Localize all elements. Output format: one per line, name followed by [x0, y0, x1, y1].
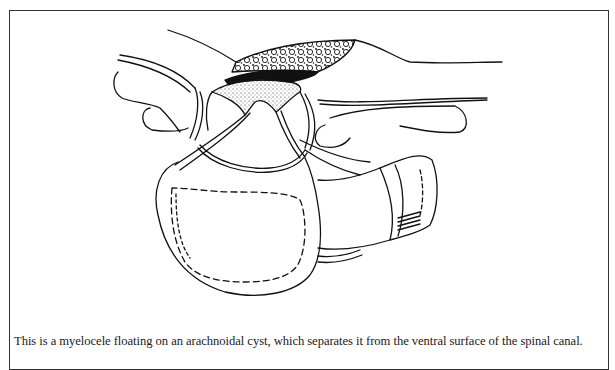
- figure-caption: This is a myelocele floating on an arach…: [14, 334, 609, 349]
- myelocele-illustration: [0, 0, 615, 330]
